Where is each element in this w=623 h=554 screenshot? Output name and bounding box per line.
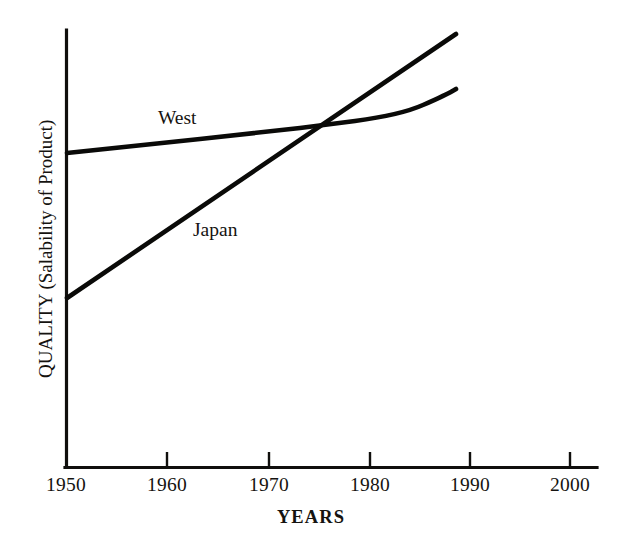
series-label-west: West <box>158 107 197 129</box>
x-tick-label-2000: 2000 <box>550 474 590 496</box>
x-tick-label-1950: 1950 <box>46 474 86 496</box>
x-tick-label-1990: 1990 <box>450 474 490 496</box>
x-tick-label-1960: 1960 <box>147 474 187 496</box>
chart-plot-area <box>0 0 623 554</box>
x-tick-label-1980: 1980 <box>350 474 390 496</box>
series-line-west <box>67 89 456 153</box>
quality-vs-years-chart: 1950 1960 1970 1980 1990 2000 YEARS QUAL… <box>0 0 623 554</box>
series-label-japan: Japan <box>193 219 237 241</box>
y-axis-title: QUALITY (Salability of Product) <box>35 120 57 378</box>
series-line-japan <box>67 34 456 298</box>
x-tick-label-1970: 1970 <box>249 474 289 496</box>
x-axis-title: YEARS <box>277 507 345 528</box>
